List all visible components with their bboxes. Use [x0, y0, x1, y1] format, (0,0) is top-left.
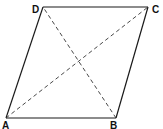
- vertex-label-c: C: [152, 4, 159, 15]
- side-bc: [116, 7, 148, 118]
- diagonal-ac: [6, 7, 148, 118]
- diagonal-bd: [43, 7, 116, 118]
- parallelogram-diagram: A B C D: [0, 0, 163, 129]
- vertex-label-a: A: [2, 120, 9, 129]
- vertex-label-b: B: [110, 120, 117, 129]
- vertex-label-d: D: [32, 4, 39, 15]
- side-da: [6, 7, 43, 118]
